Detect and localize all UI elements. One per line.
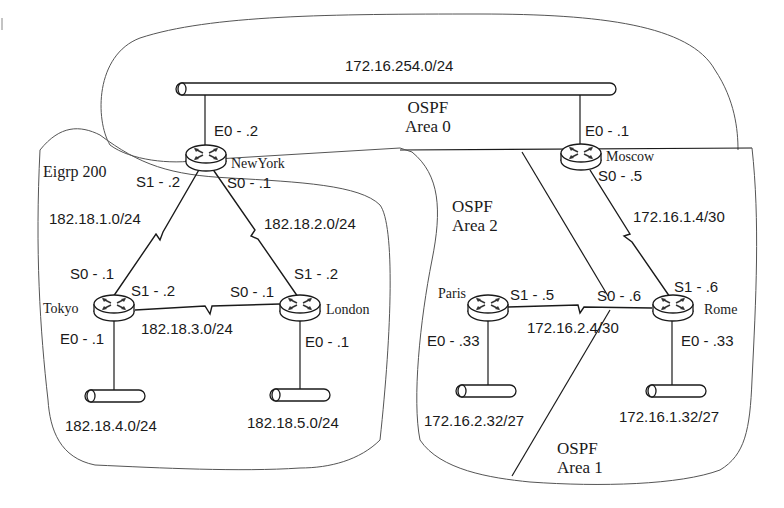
ospf-area2-label: OSPF Area 2 xyxy=(452,198,498,235)
rome-lan-segment xyxy=(646,385,706,397)
moscow-name: Moscow xyxy=(606,150,654,164)
router-moscow-icon xyxy=(561,144,601,170)
newyork-s1-label: S1 - .2 xyxy=(136,174,180,189)
moscow-s0-label: S0 - .5 xyxy=(598,168,642,183)
paris-rome-network-label: 172.16.2.4/30 xyxy=(527,320,619,335)
tokyo-lan-label: 182.18.4.0/24 xyxy=(65,418,157,433)
link-tokyo-london xyxy=(135,304,280,314)
router-paris-icon xyxy=(468,295,508,321)
rome-s1-label: S1 - .6 xyxy=(674,279,718,294)
paris-name: Paris xyxy=(438,287,466,301)
london-e0-label: E0 - .1 xyxy=(305,334,349,349)
tokyo-london-network-label: 182.18.3.0/24 xyxy=(141,321,233,336)
tokyo-e0-label: E0 - .1 xyxy=(60,331,104,346)
router-tokyo-icon xyxy=(94,295,134,321)
newyork-e0-label: E0 - .2 xyxy=(214,123,258,138)
london-lan-segment xyxy=(270,389,330,401)
area0-protocol: OSPF xyxy=(405,99,451,118)
ospf-area0-label: OSPF Area 0 xyxy=(405,99,451,136)
area0-name: Area 0 xyxy=(405,118,451,137)
ospf-area1-label: OSPF Area 1 xyxy=(557,440,603,477)
tokyo-s1-label: S1 - .2 xyxy=(131,283,175,298)
tokyo-s0-label: S0 - .1 xyxy=(70,266,114,281)
ny-london-network-label: 182.18.2.0/24 xyxy=(264,216,356,231)
network-diagram: 172.16.254.0/24 OSPF Area 0 E0 - .2 NewY… xyxy=(0,0,784,508)
area2-protocol: OSPF xyxy=(452,198,498,217)
paris-s1-label: S1 - .5 xyxy=(510,287,554,302)
router-newyork-icon xyxy=(186,145,226,171)
rome-name: Rome xyxy=(704,303,737,317)
backbone-segment xyxy=(176,83,616,95)
rome-lan-label: 172.16.1.32/27 xyxy=(619,409,719,424)
router-rome-icon xyxy=(653,295,693,321)
router-london-icon xyxy=(280,295,320,321)
paris-lan-segment xyxy=(456,385,516,397)
area2-name: Area 2 xyxy=(452,217,498,236)
moscow-e0-label: E0 - .1 xyxy=(585,123,629,138)
area1-protocol: OSPF xyxy=(557,440,603,459)
london-s0-label: S0 - .1 xyxy=(230,284,274,299)
london-lan-label: 182.18.5.0/24 xyxy=(247,415,339,430)
eigrp-label: Eigrp 200 xyxy=(43,164,107,180)
area1-name: Area 1 xyxy=(557,459,603,478)
ny-tokyo-network-label: 182.18.1.0/24 xyxy=(49,211,141,226)
london-s1-label: S1 - .2 xyxy=(294,266,338,281)
link-paris-rome xyxy=(508,305,652,313)
newyork-s0-label: S0 - .1 xyxy=(227,175,271,190)
moscow-rome-network-label: 172.16.1.4/30 xyxy=(633,209,725,224)
rome-s0-label: S0 - .6 xyxy=(597,288,641,303)
newyork-name: NewYork xyxy=(231,157,285,171)
rome-e0-label: E0 - .33 xyxy=(681,333,734,348)
paris-e0-label: E0 - .33 xyxy=(427,333,480,348)
tokyo-name: Tokyo xyxy=(43,302,79,316)
backbone-network-label: 172.16.254.0/24 xyxy=(345,58,453,73)
tokyo-lan-segment xyxy=(85,390,145,402)
london-name: London xyxy=(326,303,370,317)
link-moscow-rome xyxy=(590,170,672,300)
paris-lan-label: 172.16.2.32/27 xyxy=(424,413,524,428)
